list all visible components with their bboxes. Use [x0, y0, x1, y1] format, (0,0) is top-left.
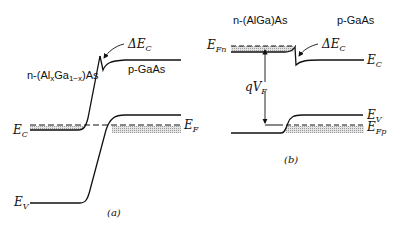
n-region-label: n-(AlxGa1−x)As [27, 69, 99, 83]
delta-ec-arrow [104, 44, 124, 58]
band-diagram: ΔEC n-(AlxGa1−x)As p-GaAs EC EF EV (a) n… [0, 0, 395, 229]
delta-ec-label: ΔEC [127, 37, 152, 53]
p-side-quasi-fermi-shading [286, 126, 364, 133]
efn-label: EFn [206, 38, 226, 54]
ef-label: EF [183, 118, 199, 134]
ec-label: EC [12, 123, 28, 139]
n-side-quasi-fermi-shading [231, 46, 294, 52]
ev-label: EV [13, 195, 30, 211]
p-region-label: p-GaAs [128, 63, 166, 75]
panel-a: ΔEC n-(AlxGa1−x)As p-GaAs EC EF EV (a) [12, 37, 199, 218]
panel-b-caption: (b) [284, 154, 298, 165]
conduction-band-n-side [30, 56, 100, 130]
panel-b: n-(AlGa)As p-GaAs EFn ΔEC EC qVF EV EFp … [206, 14, 386, 165]
panel-a-caption: (a) [107, 207, 121, 218]
ec-label-b: EC [366, 53, 382, 69]
p-region-label-b: p-GaAs [337, 14, 375, 26]
n-region-label-b: n-(AlGa)As [233, 14, 288, 26]
p-side-degenerate-shading [112, 126, 181, 133]
qvf-label: qVF [245, 80, 267, 96]
delta-ec-label-b: ΔEC [321, 37, 346, 53]
delta-ec-arrow-b [299, 44, 318, 56]
